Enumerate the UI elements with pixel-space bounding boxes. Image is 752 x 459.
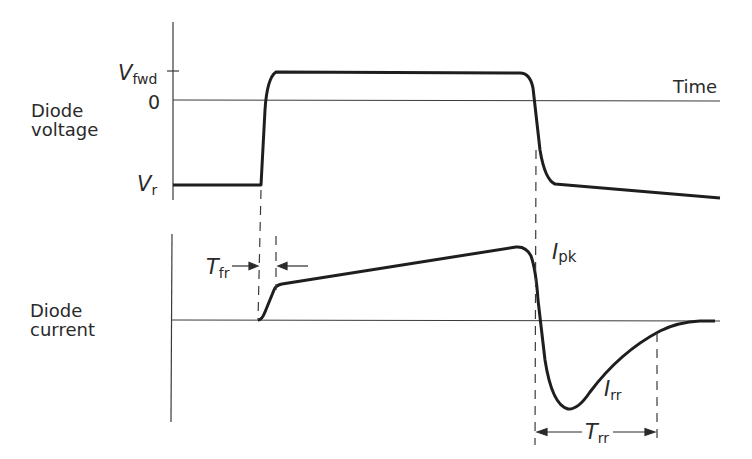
vr-label-sub: r — [151, 182, 157, 198]
voltage-panel — [167, 22, 720, 200]
ipk-label: Ipk — [552, 240, 577, 266]
guide-lines — [258, 150, 657, 445]
tfr-label-sub: fr — [219, 265, 230, 281]
tfr-arrows — [232, 263, 308, 270]
guide-turn-off — [535, 150, 536, 445]
voltage-panel-label-line2: voltage — [31, 119, 98, 140]
voltage-panel-label-line1: Diode — [31, 100, 83, 121]
current-panel-label-line2: current — [30, 319, 95, 340]
current-panel-label-line1: Diode — [30, 300, 82, 321]
trr-label: Trr — [585, 420, 609, 446]
irr-label: Irr — [604, 377, 622, 403]
zero-label: 0 — [148, 91, 160, 113]
guide-turn-on — [258, 190, 261, 320]
tfr-label: Tfr — [206, 255, 230, 281]
irr-label-sub: rr — [610, 387, 622, 403]
trr-label-sub: rr — [598, 430, 610, 446]
current-zero-line — [172, 320, 720, 321]
current-curve — [258, 247, 715, 409]
time-axis-label: Time — [672, 76, 717, 97]
diode-waveform-diagram: Diode voltage Vfwd 0 Vr Time Diode curre… — [0, 0, 752, 459]
vfwd-label: Vfwd — [118, 61, 157, 87]
ipk-label-sub: pk — [558, 248, 577, 266]
current-panel — [171, 234, 720, 422]
vr-label: Vr — [137, 172, 157, 198]
voltage-zero-line — [173, 100, 720, 101]
current-y-axis — [171, 234, 172, 422]
vfwd-label-sub: fwd — [132, 71, 157, 87]
voltage-curve — [173, 72, 720, 198]
